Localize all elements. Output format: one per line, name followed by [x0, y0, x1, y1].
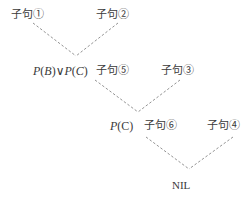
edge-clause5-to-resolvent2: [95, 80, 138, 112]
edge-clause2-to-resolvent1: [76, 23, 118, 56]
expr-symbol: C: [76, 64, 84, 78]
edge-clause1-to-resolvent1: [33, 23, 76, 56]
node-resolvent-pb-or-pc: P(B)∨P(C): [33, 65, 88, 77]
expr-symbol: ): [84, 64, 88, 78]
edge-clause3-to-resolvent2: [138, 80, 180, 112]
node-clause1: 子句①: [11, 9, 44, 21]
expr-symbol: B: [44, 64, 51, 78]
node-nil-result: NIL: [172, 179, 190, 191]
expr-symbol: ): [129, 119, 133, 133]
node-clause2: 子句②: [96, 9, 129, 21]
edge-clause4-to-result: [189, 137, 233, 169]
node-clause6: 子句⑥: [144, 120, 177, 132]
node-clause5: 子句⑤: [96, 65, 129, 77]
node-clause3: 子句③: [161, 65, 194, 77]
edge-clause6-to-result: [146, 137, 189, 169]
node-resolvent-pc: P(C): [110, 120, 133, 132]
node-clause4: 子句④: [207, 120, 240, 132]
edges-layer: [0, 0, 246, 197]
expr-symbol: P: [64, 64, 71, 78]
resolution-tree-diagram: 子句① 子句② P(B)∨P(C) 子句⑤ 子句③ P(C) 子句⑥ 子句④ N…: [0, 0, 246, 197]
